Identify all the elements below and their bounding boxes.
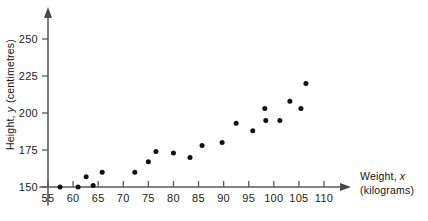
- plot-canvas: 556065707580859095100105110 150175200225…: [0, 0, 428, 221]
- data-point: [220, 140, 225, 145]
- data-point: [100, 170, 105, 175]
- x-tick-label: 100: [264, 192, 283, 204]
- data-point: [153, 149, 158, 154]
- data-point: [200, 143, 205, 148]
- y-tick-label: 225: [19, 70, 38, 82]
- data-point: [132, 170, 137, 175]
- x-tick-label: 60: [67, 192, 80, 204]
- data-point: [171, 150, 176, 155]
- x-tick-label: 85: [192, 192, 205, 204]
- data-point: [146, 159, 151, 164]
- data-point: [76, 185, 81, 190]
- y-axis-ticks: 150175200225250: [19, 33, 48, 193]
- data-point: [234, 121, 239, 126]
- data-point: [287, 99, 292, 104]
- x-tick-label: 105: [289, 192, 308, 204]
- x-tick-label: 55: [42, 192, 55, 204]
- x-axis-title-line2: (kilograms): [360, 184, 414, 196]
- x-axis-title-line1: Weight,x: [360, 170, 406, 182]
- data-point: [262, 106, 267, 111]
- data-point: [58, 185, 63, 190]
- y-axis-arrow-icon: [44, 7, 52, 18]
- x-tick-label: 95: [242, 192, 255, 204]
- y-tick-label: 150: [19, 181, 38, 193]
- x-tick-label: 90: [217, 192, 230, 204]
- x-tick-label: 75: [142, 192, 155, 204]
- data-point: [263, 118, 268, 123]
- y-axis-title-text: Height,y(centimetres): [4, 39, 16, 150]
- x-axis-ticks: 556065707580859095100105110: [42, 181, 334, 204]
- x-axis-arrow-icon: [340, 183, 351, 191]
- y-tick-label: 175: [19, 144, 38, 156]
- data-point: [84, 174, 89, 179]
- x-tick-label: 70: [117, 192, 130, 204]
- x-tick-label: 80: [167, 192, 180, 204]
- y-axis-title: Height,y(centimetres): [4, 39, 16, 150]
- x-axis-title: Weight,x (kilograms): [360, 170, 414, 196]
- data-point: [277, 118, 282, 123]
- data-point: [188, 155, 193, 160]
- y-tick-label: 250: [19, 33, 38, 45]
- data-points: [58, 81, 309, 190]
- y-tick-label: 200: [19, 107, 38, 119]
- data-point: [303, 81, 308, 86]
- data-point: [298, 106, 303, 111]
- x-tick-label: 65: [92, 192, 105, 204]
- data-point: [250, 128, 255, 133]
- data-point: [91, 183, 96, 188]
- x-tick-label: 110: [315, 192, 333, 204]
- scatter-chart: 556065707580859095100105110 150175200225…: [0, 0, 428, 221]
